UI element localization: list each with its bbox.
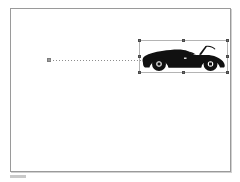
s-resize-handle[interactable] xyxy=(182,71,185,74)
sw-resize-handle[interactable] xyxy=(138,71,141,74)
nw-resize-handle[interactable] xyxy=(138,39,141,42)
selection-bounding-box[interactable] xyxy=(139,40,228,73)
status-strip xyxy=(10,174,28,179)
se-resize-handle[interactable] xyxy=(226,71,229,74)
motion-path-start-marker[interactable] xyxy=(47,58,51,62)
w-resize-handle[interactable] xyxy=(138,55,141,58)
e-resize-handle[interactable] xyxy=(226,55,229,58)
slide-canvas[interactable] xyxy=(10,8,231,172)
slide-editor-canvas-area xyxy=(0,0,240,182)
motion-path xyxy=(11,9,232,173)
status-strip-bar xyxy=(10,175,26,178)
n-resize-handle[interactable] xyxy=(182,39,185,42)
ne-resize-handle[interactable] xyxy=(226,39,229,42)
